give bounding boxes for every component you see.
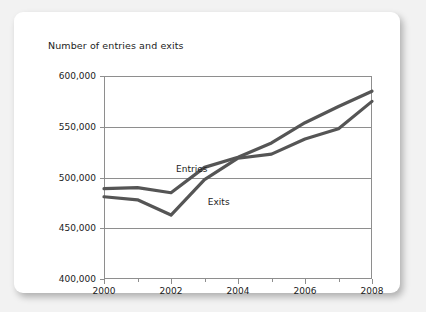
chart-title: Number of entries and exits [48,40,184,51]
series-line-exits [104,101,372,215]
screenshot-root: Number of entries and exits 600,000550,0… [0,0,426,312]
series-annotation-exits: Exits [208,197,230,207]
chart-plot-area: 600,000550,000500,000450,000400,00020002… [48,62,388,292]
series-line-entries [104,91,372,192]
chart-card: Number of entries and exits 600,000550,0… [14,12,400,293]
series-annotation-entries: Entries [176,164,207,174]
line-series-layer [48,62,388,292]
